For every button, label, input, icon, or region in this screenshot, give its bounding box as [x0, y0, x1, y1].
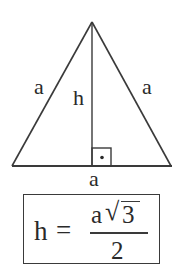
triangle-right-side [92, 22, 171, 166]
base-label: a [89, 168, 99, 190]
right-side-label: a [142, 76, 152, 98]
formula-lhs: h [34, 218, 48, 245]
left-side-label: a [34, 76, 44, 98]
fraction-bar [90, 232, 148, 234]
right-angle-dot-icon [100, 156, 104, 160]
formula-numerator-var: a [91, 202, 102, 227]
formula-denominator: 2 [111, 238, 124, 263]
formula-equals: = [56, 217, 71, 244]
formula-numerator-radicand: 3 [122, 202, 135, 227]
sqrt-icon: √ [105, 199, 119, 225]
height-label: h [73, 87, 84, 109]
